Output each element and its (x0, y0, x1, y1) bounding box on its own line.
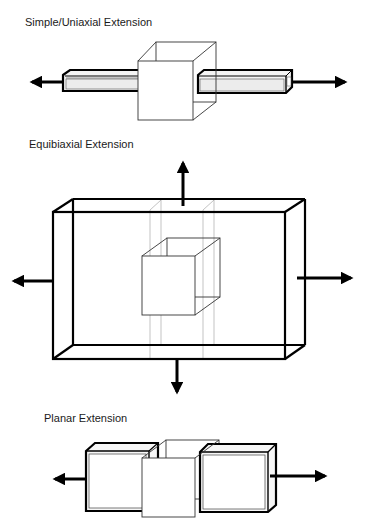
extension-diagrams (0, 0, 366, 521)
equibiaxial-diagram (14, 163, 351, 392)
uniaxial-right-bar (198, 70, 292, 93)
uniaxial-left-bar (63, 70, 142, 91)
uniaxial-diagram (32, 42, 345, 120)
planar-diagram (55, 440, 325, 517)
equibiaxial-cube (142, 238, 220, 315)
planar-right-block (200, 444, 276, 512)
